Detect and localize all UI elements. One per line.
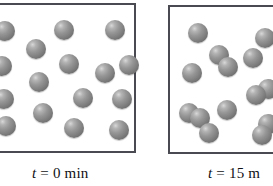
particle-sphere	[64, 118, 84, 138]
time-value-initial: 0	[53, 165, 61, 181]
equals-sign-final: =	[216, 165, 225, 181]
particle-sphere	[105, 20, 125, 40]
particle-sphere	[29, 72, 49, 92]
particle-sphere	[26, 39, 46, 59]
particle-sphere	[59, 54, 79, 74]
particle-sphere	[95, 63, 115, 83]
particle-sphere	[255, 28, 273, 48]
particle-sphere	[246, 85, 266, 105]
time-value-final: 15	[229, 165, 244, 181]
particle-sphere	[119, 55, 139, 75]
caption-final-time: t = 15 m	[208, 166, 260, 181]
particle-diagram-figure: t = 0 min t = 15 m	[0, 0, 273, 186]
particle-sphere	[188, 23, 208, 43]
particle-sphere	[54, 20, 74, 40]
particle-sphere	[112, 89, 132, 109]
particle-sphere	[182, 63, 202, 83]
particle-sphere	[252, 125, 272, 145]
particle-sphere	[33, 103, 53, 123]
particle-sphere	[199, 123, 219, 143]
particle-sphere	[109, 120, 129, 140]
particle-sphere	[218, 57, 238, 77]
caption-initial-time: t = 0 min	[32, 166, 89, 181]
time-variable-final: t	[208, 165, 212, 181]
equals-sign-initial: =	[40, 165, 49, 181]
time-unit-initial: min	[65, 165, 89, 181]
particle-sphere	[243, 48, 263, 68]
particle-sphere	[217, 100, 237, 120]
time-unit-final: m	[248, 165, 260, 181]
time-variable-initial: t	[32, 165, 36, 181]
particle-sphere	[73, 88, 93, 108]
